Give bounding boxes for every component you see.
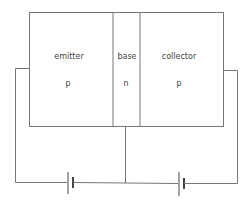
emitter-type: p: [65, 79, 70, 88]
transistor-diagram: emitter p base n collector p: [0, 0, 251, 204]
collector-base-battery: [179, 172, 184, 196]
transistor-body: [30, 13, 224, 127]
emitter-wire: [16, 69, 68, 183]
region-emitter: emitter p: [54, 52, 84, 88]
region-base: base n: [117, 52, 136, 88]
base-type: n: [123, 79, 128, 88]
collector-type: p: [176, 79, 181, 88]
emitter-label: emitter: [54, 52, 84, 61]
base-label: base: [117, 52, 136, 61]
collector-label: collector: [162, 52, 197, 61]
emitter-base-battery: [68, 172, 73, 194]
region-collector: collector p: [162, 52, 197, 88]
